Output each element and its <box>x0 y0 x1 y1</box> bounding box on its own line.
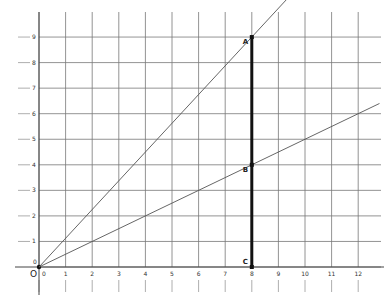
y-tick-label: 7 <box>32 84 36 91</box>
point-b <box>250 163 254 167</box>
x-tick-label: 8 <box>250 270 254 277</box>
y-tick-label: 3 <box>32 186 36 193</box>
x-tick-label: 5 <box>170 270 174 277</box>
x-tick-label: 6 <box>197 270 201 277</box>
x-tick-label: 7 <box>223 270 227 277</box>
x-tick-label: 10 <box>301 270 309 277</box>
x-zero-label: 0 <box>42 270 46 277</box>
y-tick-label: 9 <box>32 33 36 40</box>
y-tick-label: 6 <box>32 110 36 117</box>
point-c <box>250 265 254 269</box>
point-label-c: C <box>243 258 248 266</box>
y-tick-label: 1 <box>32 237 36 244</box>
line-OA <box>39 0 286 267</box>
x-tick-label: 12 <box>354 270 362 277</box>
y-tick-label: 5 <box>32 135 36 142</box>
origin-label: O <box>30 269 37 279</box>
y-tick-label: 4 <box>32 161 36 168</box>
x-tick-label: 11 <box>328 270 336 277</box>
y-tick-label: 2 <box>32 212 36 219</box>
x-tick-label: 9 <box>276 270 280 277</box>
x-tick-label: 2 <box>90 270 94 277</box>
x-tick-label: 1 <box>64 270 68 277</box>
point-label-a: A <box>243 38 249 46</box>
coordinate-graph: 12345678910111212345678900OABC <box>0 0 391 302</box>
x-tick-label: 3 <box>117 270 121 277</box>
x-tick-label: 4 <box>143 270 147 277</box>
point-label-b: B <box>243 166 248 174</box>
grid: 123456789101112123456789 <box>18 12 381 292</box>
y-tick-label: 8 <box>32 59 36 66</box>
point-a <box>250 35 254 39</box>
line-OB <box>39 103 379 267</box>
y-zero-label: 0 <box>33 258 37 265</box>
